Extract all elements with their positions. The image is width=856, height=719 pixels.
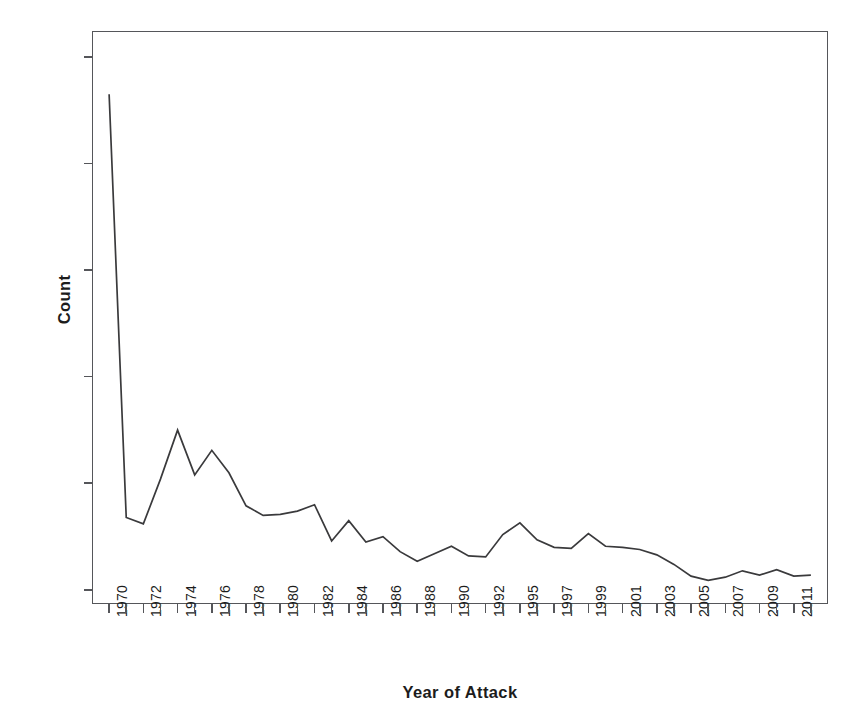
x-axis-tick-label: 1978 bbox=[251, 585, 267, 617]
plot-canvas bbox=[92, 31, 828, 604]
x-axis-tick-mark bbox=[776, 604, 778, 613]
x-axis-tick-mark bbox=[742, 604, 744, 613]
x-axis-tick-label: 2011 bbox=[799, 586, 815, 617]
x-axis-tick-label: 1972 bbox=[148, 585, 164, 617]
x-axis-tick-label: 2005 bbox=[696, 585, 712, 617]
x-axis-tick-mark bbox=[279, 604, 281, 613]
x-axis-tick-mark bbox=[759, 604, 761, 613]
x-axis-tick-mark bbox=[125, 604, 127, 613]
x-axis-tick-label: 2003 bbox=[662, 585, 678, 617]
x-axis-tick-label: 1986 bbox=[388, 585, 404, 617]
x-axis-tick-label: 1997 bbox=[559, 585, 575, 617]
x-axis-tick-label: 1992 bbox=[491, 585, 507, 617]
x-axis-tick-mark bbox=[143, 604, 145, 613]
x-axis-tick-mark bbox=[810, 604, 812, 613]
x-axis-tick-mark bbox=[673, 604, 675, 613]
x-axis-tick-mark bbox=[365, 604, 367, 613]
x-axis-tick-label: 2009 bbox=[765, 585, 781, 617]
x-axis-tick-mark bbox=[690, 604, 692, 613]
x-axis-tick-label: 1974 bbox=[183, 585, 199, 617]
x-axis-tick-mark bbox=[177, 604, 179, 613]
x-axis-tick-mark bbox=[656, 604, 658, 613]
x-axis-tick-label: 2007 bbox=[730, 585, 746, 617]
x-axis-tick-label: 1984 bbox=[354, 585, 370, 617]
x-axis-tick-mark bbox=[502, 604, 504, 613]
x-axis-tick-label: 1982 bbox=[320, 585, 336, 617]
x-axis-tick-mark bbox=[468, 604, 470, 613]
x-axis-tick-mark bbox=[314, 604, 316, 613]
x-axis-tick-mark bbox=[331, 604, 333, 613]
x-axis-tick-label: 2001 bbox=[628, 585, 644, 617]
x-axis-tick-mark bbox=[211, 604, 213, 613]
x-axis-tick-mark bbox=[382, 604, 384, 613]
x-axis-tick-mark bbox=[245, 604, 247, 613]
x-axis-tick-mark bbox=[485, 604, 487, 613]
x-axis-tick-mark bbox=[605, 604, 607, 613]
x-axis-tick-mark bbox=[297, 604, 299, 613]
x-axis-tick-mark bbox=[399, 604, 401, 613]
x-axis-tick-mark bbox=[194, 604, 196, 613]
x-axis-tick-mark bbox=[553, 604, 555, 613]
x-axis-tick-mark bbox=[707, 604, 709, 613]
x-axis-tick-mark bbox=[622, 604, 624, 613]
count-series-line bbox=[109, 94, 811, 580]
x-axis-tick-mark bbox=[725, 604, 727, 613]
x-axis-tick-mark bbox=[451, 604, 453, 613]
x-axis-tick-mark bbox=[160, 604, 162, 613]
x-axis-tick-mark bbox=[416, 604, 418, 613]
y-axis-title: Count bbox=[55, 230, 74, 370]
x-axis-tick-mark bbox=[588, 604, 590, 613]
x-axis-tick-mark bbox=[570, 604, 572, 613]
x-axis-tick-label: 1988 bbox=[422, 585, 438, 617]
line-chart: Count 0100200300400500 19701972197419761… bbox=[0, 0, 856, 719]
x-axis-tick-mark bbox=[793, 604, 795, 613]
x-axis-tick-label: 1999 bbox=[593, 585, 609, 617]
x-axis-tick-mark bbox=[536, 604, 538, 613]
x-axis-tick-mark bbox=[228, 604, 230, 613]
x-axis-tick-label: 1976 bbox=[217, 585, 233, 617]
x-axis-tick-label: 1970 bbox=[114, 585, 130, 617]
x-axis-tick-mark bbox=[262, 604, 264, 613]
x-axis-tick-mark bbox=[108, 604, 110, 613]
x-axis-tick-mark bbox=[434, 604, 436, 613]
x-axis-tick-mark bbox=[519, 604, 521, 613]
x-axis-tick-label: 1995 bbox=[525, 585, 541, 617]
x-axis-title: Year of Attack bbox=[92, 683, 828, 702]
x-axis-tick-mark bbox=[639, 604, 641, 613]
x-axis-tick-label: 1980 bbox=[285, 585, 301, 617]
x-axis-tick-mark bbox=[348, 604, 350, 613]
x-axis-tick-label: 1990 bbox=[456, 585, 472, 617]
